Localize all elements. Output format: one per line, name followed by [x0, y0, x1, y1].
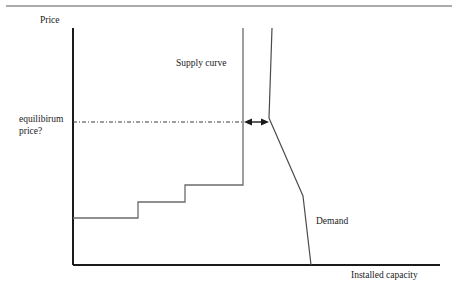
y-axis-label: Price: [40, 15, 60, 27]
gap-arrow-head-right: [261, 119, 269, 126]
gap-arrow: [244, 119, 269, 126]
x-axis-label: Installed capacity: [351, 270, 418, 282]
gap-arrow-head-left: [244, 119, 252, 126]
supply-demand-diagram: [0, 0, 458, 292]
equilibrium-price-label-line2: price?: [19, 126, 63, 138]
figure-canvas: Price Installed capacity Supply curve De…: [0, 0, 458, 292]
equilibrium-price-label: equilibirum price?: [19, 114, 63, 138]
demand-curve-label: Demand: [316, 216, 348, 228]
demand-curve: [269, 28, 311, 265]
supply-curve-label: Supply curve: [176, 58, 226, 70]
equilibrium-price-label-line1: equilibirum: [19, 114, 63, 126]
supply-curve: [73, 28, 243, 218]
